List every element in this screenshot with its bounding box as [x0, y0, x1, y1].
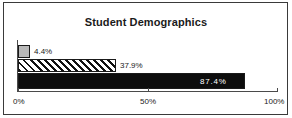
x-tick-50 — [148, 88, 149, 92]
plot-area: 4.4% 37.9% 87.4% 0% 50% 100% — [0, 0, 292, 118]
x-tick-100 — [277, 88, 278, 92]
bar-label-series-1: 4.4% — [34, 47, 52, 56]
x-tick-label-50: 50% — [140, 97, 156, 106]
chart-container: Student Demographics 4.4% 37.9% 87.4% 0%… — [0, 0, 292, 118]
bar-series-2 — [18, 59, 116, 72]
x-tick-0 — [18, 88, 19, 92]
x-tick-label-0: 0% — [13, 97, 25, 106]
x-tick-label-100: 100% — [264, 97, 284, 106]
bar-series-1 — [18, 45, 30, 58]
bar-label-series-3: 87.4% — [200, 77, 227, 86]
bar-label-series-2: 37.9% — [120, 61, 143, 70]
